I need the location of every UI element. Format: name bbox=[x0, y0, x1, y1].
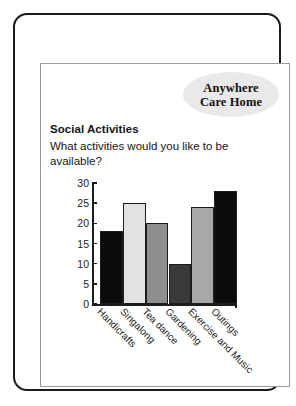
x-axis-tick-labels: HandicraftsSingalongTea danceGardeningEx… bbox=[100, 306, 250, 376]
y-axis-tick-label: 5 bbox=[83, 278, 89, 290]
y-axis-tick-mark bbox=[92, 263, 97, 265]
y-axis-tick-label: 0 bbox=[83, 298, 89, 310]
page-title: Social Activities bbox=[50, 123, 139, 135]
y-axis-tick-mark bbox=[92, 223, 97, 225]
y-axis-tick: 10 bbox=[92, 263, 97, 265]
y-axis-tick-label: 20 bbox=[77, 217, 89, 229]
y-axis-tick-label: 25 bbox=[77, 197, 89, 209]
y-axis-tick-mark bbox=[92, 303, 97, 305]
y-axis-tick: 25 bbox=[92, 202, 97, 204]
y-axis-tick-label: 15 bbox=[77, 238, 89, 250]
survey-question: What activities would you like to be ava… bbox=[50, 139, 260, 169]
y-axis-tick: 15 bbox=[92, 243, 97, 245]
bar bbox=[169, 264, 192, 304]
bar bbox=[100, 231, 123, 304]
bar-series bbox=[100, 178, 237, 304]
y-axis-tick: 5 bbox=[92, 283, 97, 285]
y-axis-tick-mark bbox=[92, 202, 97, 204]
bar bbox=[123, 203, 146, 304]
poster-card: Anywhere Care Home Social Activities Wha… bbox=[13, 13, 281, 391]
y-axis-tick: 30 bbox=[92, 182, 97, 184]
y-axis-tick-mark bbox=[92, 283, 97, 285]
logo-line-2: Care Home bbox=[200, 95, 262, 109]
y-axis-tick-mark bbox=[92, 182, 97, 184]
care-home-logo: Anywhere Care Home bbox=[183, 72, 279, 117]
y-axis-tick-mark bbox=[92, 243, 97, 245]
y-axis-tick-label: 10 bbox=[77, 258, 89, 270]
y-axis-tick: 20 bbox=[92, 223, 97, 225]
logo-line-1: Anywhere bbox=[203, 81, 258, 95]
bar bbox=[146, 223, 169, 304]
y-axis-tick-label: 30 bbox=[77, 177, 89, 189]
bar-chart: 051015202530 HandicraftsSingalongTea dan… bbox=[50, 178, 260, 378]
bar bbox=[191, 207, 214, 304]
bar bbox=[214, 191, 237, 304]
y-axis-tick: 0 bbox=[92, 303, 97, 305]
